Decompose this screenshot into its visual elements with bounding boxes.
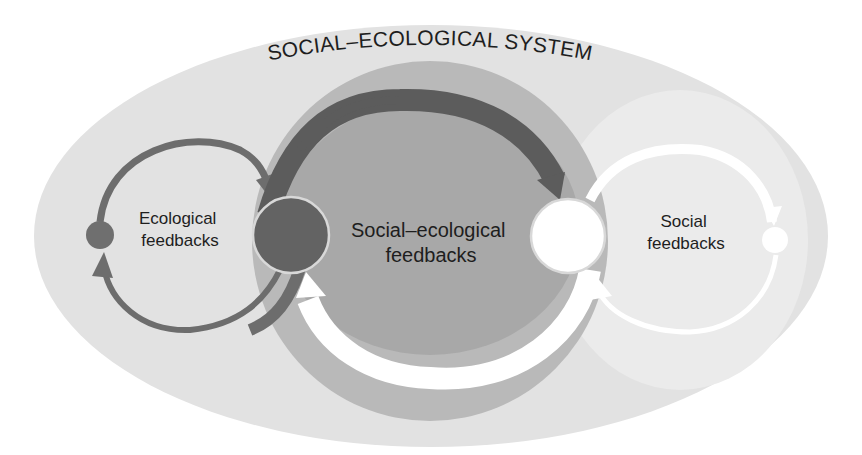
ecological-node <box>253 197 329 273</box>
social-ecological-system-diagram: SOCIAL–ECOLOGICAL SYSTEM Ecological feed… <box>0 0 862 455</box>
ecological-small-node <box>86 221 114 249</box>
social-node <box>531 199 605 273</box>
social-small-node <box>762 227 788 253</box>
